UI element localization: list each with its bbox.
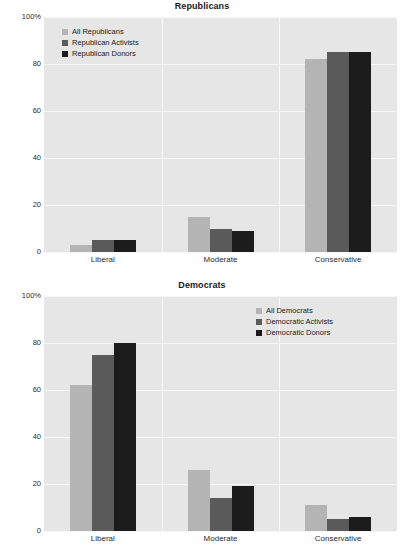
legend-label: All Democrats: [266, 305, 313, 316]
y-axis-tick-label: 40: [1, 154, 41, 162]
bar: [114, 240, 136, 252]
x-axis-tick-label: Moderate: [204, 255, 238, 264]
bar: [349, 52, 371, 252]
bar: [232, 486, 254, 531]
y-axis-tick-label: 0: [1, 527, 41, 535]
y-axis-republicans: 020406080100%: [0, 17, 41, 252]
bar: [70, 385, 92, 531]
y-axis-tick-label: 20: [1, 201, 41, 209]
y-axis-tick-label: 100%: [1, 292, 41, 300]
chart-title-democrats: Democrats: [0, 280, 404, 290]
bars-democrats: [44, 296, 397, 531]
legend-republicans: All RepublicansRepublican ActivistsRepub…: [62, 26, 139, 59]
chart-title-republicans: Republicans: [0, 1, 404, 11]
bar: [188, 217, 210, 252]
legend-item: All Republicans: [62, 26, 139, 37]
legend-swatch-icon: [62, 51, 68, 57]
legend-item: All Democrats: [256, 305, 333, 316]
gridline: [44, 252, 397, 253]
bar: [305, 505, 327, 531]
legend-label: Republican Donors: [72, 48, 136, 59]
legend-democrats: All DemocratsDemocratic ActivistsDemocra…: [256, 305, 333, 338]
x-axis-tick-label: Liberal: [91, 255, 115, 264]
bar: [92, 240, 114, 252]
y-axis-democrats: 020406080100%: [0, 296, 41, 531]
x-axis-republicans: LiberalModerateConservative: [44, 255, 397, 269]
y-axis-tick-label: 40: [1, 433, 41, 441]
legend-swatch-icon: [256, 330, 262, 336]
figure: Republicans 020406080100% LiberalModerat…: [0, 0, 404, 557]
legend-label: All Republicans: [72, 26, 124, 37]
y-axis-tick-label: 0: [1, 248, 41, 256]
bar: [210, 498, 232, 531]
x-axis-tick-label: Conservative: [315, 534, 362, 543]
x-axis-tick-label: Conservative: [315, 255, 362, 264]
legend-swatch-icon: [256, 308, 262, 314]
legend-item: Democratic Donors: [256, 327, 333, 338]
y-axis-tick-label: 100%: [1, 13, 41, 21]
bar: [232, 231, 254, 252]
x-axis-tick-label: Moderate: [204, 534, 238, 543]
y-axis-tick-label: 80: [1, 339, 41, 347]
bar: [188, 470, 210, 531]
legend-item: Republican Donors: [62, 48, 139, 59]
bar: [305, 59, 327, 252]
y-axis-tick-label: 60: [1, 386, 41, 394]
chart-panel-democrats: Democrats 020406080100% LiberalModerateC…: [0, 279, 404, 557]
legend-swatch-icon: [256, 319, 262, 325]
x-axis-tick-label: Liberal: [91, 534, 115, 543]
legend-item: Republican Activists: [62, 37, 139, 48]
legend-label: Republican Activists: [72, 37, 139, 48]
legend-item: Democratic Activists: [256, 316, 333, 327]
bar: [114, 343, 136, 531]
bar: [327, 52, 349, 252]
gridline: [44, 531, 397, 532]
legend-swatch-icon: [62, 29, 68, 35]
bar: [327, 519, 349, 531]
legend-swatch-icon: [62, 40, 68, 46]
legend-label: Democratic Activists: [266, 316, 333, 327]
x-axis-democrats: LiberalModerateConservative: [44, 534, 397, 548]
legend-label: Democratic Donors: [266, 327, 330, 338]
plot-area-democrats: [44, 296, 397, 531]
bar: [210, 229, 232, 253]
y-axis-tick-label: 80: [1, 60, 41, 68]
bar: [70, 245, 92, 252]
chart-panel-republicans: Republicans 020406080100% LiberalModerat…: [0, 0, 404, 278]
y-axis-tick-label: 20: [1, 480, 41, 488]
bar: [349, 517, 371, 531]
bar: [92, 355, 114, 531]
y-axis-tick-label: 60: [1, 107, 41, 115]
